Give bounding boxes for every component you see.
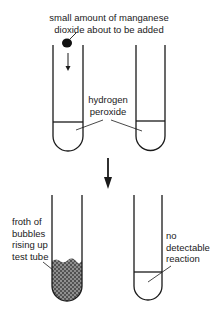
label-line: reaction: [166, 253, 210, 265]
test-tube-bottom-right: [134, 195, 162, 300]
label-line: test tube: [12, 251, 48, 263]
label-line: rising up: [12, 239, 48, 251]
label-line: hydrogen: [86, 94, 130, 106]
down-arrow-icon: [104, 158, 112, 189]
froth-of-bubbles: [52, 258, 82, 301]
label-line: no: [166, 230, 210, 242]
label-line: detectable: [166, 242, 210, 254]
test-tube-top-right: [136, 45, 165, 151]
hydrogen-peroxide-label: hydrogen peroxide: [86, 94, 130, 117]
froth-label: froth of bubbles rising up test tube: [12, 216, 48, 262]
label-line: bubbles: [12, 228, 48, 240]
diagram-canvas: [0, 0, 219, 315]
drop-arrow-icon: [66, 53, 71, 71]
no-reaction-label: no detectable reaction: [166, 230, 210, 265]
label-line: small amount of manganese: [48, 12, 170, 24]
label-line: froth of: [12, 216, 48, 228]
manganese-dioxide-lump: [62, 33, 76, 48]
manganese-dioxide-label: small amount of manganese dioxide about …: [48, 12, 170, 35]
leader-line: [148, 266, 171, 282]
test-tube-bottom-left: [52, 195, 82, 301]
label-line: peroxide: [86, 106, 130, 118]
label-line: dioxide about to be added: [48, 24, 170, 36]
